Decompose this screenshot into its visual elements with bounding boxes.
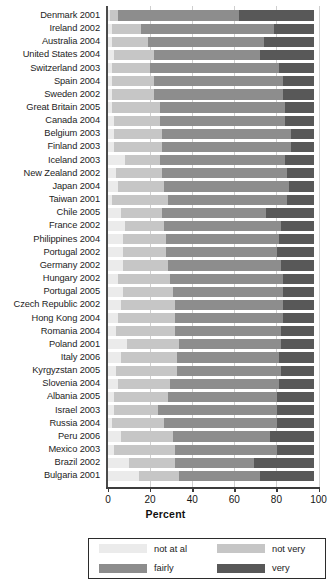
stacked-bar <box>106 50 314 60</box>
stacked-bar <box>106 300 314 310</box>
bar-segment-not-at-al <box>106 313 118 323</box>
bar-cell <box>104 206 331 219</box>
stacked-bar <box>106 181 314 191</box>
bar-cell <box>104 259 331 272</box>
x-axis-title: Percent <box>0 508 331 520</box>
bar-segment-not-very <box>112 102 160 112</box>
bar-segment-very <box>277 445 314 455</box>
row-label: New Zealand 2002 <box>0 169 104 178</box>
bar-segment-fairly <box>179 339 281 349</box>
legend-label: fairly <box>154 563 174 573</box>
chart-row: Germany 2002 <box>0 259 331 272</box>
bar-cell <box>104 391 331 404</box>
bar-segment-fairly <box>148 37 264 47</box>
legend-label: not at al <box>154 544 187 554</box>
bar-segment-very <box>281 366 314 376</box>
bar-segment-fairly <box>150 63 279 73</box>
stacked-bar <box>106 142 314 152</box>
x-tick-label: 20 <box>145 494 156 505</box>
bar-segment-very <box>287 195 314 205</box>
bar-segment-not-very <box>125 221 165 231</box>
stacked-bar <box>106 129 314 139</box>
bar-segment-not-very <box>112 76 154 86</box>
x-tick-label: 0 <box>105 494 111 505</box>
chart-row: Italy 2006 <box>0 351 331 364</box>
legend-swatch <box>99 564 147 573</box>
bar-cell <box>104 62 331 75</box>
bar-segment-very <box>279 63 314 73</box>
bar-cell <box>104 338 331 351</box>
bar-segment-not-at-al <box>106 458 129 468</box>
bar-segment-not-very <box>110 10 118 20</box>
x-tick-label: 80 <box>271 494 282 505</box>
bar-segment-not-at-al <box>106 379 118 389</box>
chart-row: Portugal 2002 <box>0 246 331 259</box>
bar-segment-very <box>291 142 314 152</box>
bar-segment-fairly <box>173 431 271 441</box>
bar-segment-fairly <box>177 352 279 362</box>
stacked-bar-chart: Denmark 2001Ireland 2002Australia 2004Un… <box>0 0 331 582</box>
bar-segment-very <box>239 10 314 20</box>
x-tick <box>234 487 235 492</box>
bar-segment-fairly <box>162 142 291 152</box>
chart-row: Denmark 2001 <box>0 9 331 22</box>
bar-segment-fairly <box>175 326 281 336</box>
legend-item: not at al <box>89 544 207 554</box>
stacked-bar <box>106 221 314 231</box>
legend-swatch <box>217 564 265 573</box>
stacked-bar <box>106 260 314 270</box>
stacked-bar <box>106 339 314 349</box>
bar-segment-not-very <box>123 234 167 244</box>
legend-label: very <box>272 563 290 573</box>
bar-segment-very <box>285 155 314 165</box>
bar-cell <box>104 351 331 364</box>
row-label: Slovenia 2004 <box>0 379 104 388</box>
legend-swatch <box>99 544 147 553</box>
row-label: Philippines 2004 <box>0 235 104 244</box>
chart-row: Chile 2005 <box>0 206 331 219</box>
chart-row: Philippines 2004 <box>0 233 331 246</box>
bar-segment-very <box>283 287 314 297</box>
bar-segment-fairly <box>168 260 280 270</box>
bar-segment-not-at-al <box>106 234 123 244</box>
bar-segment-very <box>274 24 314 34</box>
x-tick <box>276 487 277 492</box>
bar-segment-fairly <box>164 181 289 191</box>
bar-cell <box>104 272 331 285</box>
bar-segment-not-very <box>118 181 164 191</box>
bar-segment-not-at-al <box>106 287 123 297</box>
chart-row: Romania 2004 <box>0 325 331 338</box>
stacked-bar <box>106 102 314 112</box>
bar-segment-not-very <box>114 142 162 152</box>
row-label: Bulgaria 2001 <box>0 471 104 480</box>
bar-segment-fairly <box>175 458 254 468</box>
x-tick <box>150 487 151 492</box>
stacked-bar <box>106 392 314 402</box>
bar-segment-very <box>283 313 314 323</box>
bar-segment-fairly <box>175 313 283 323</box>
row-label: Chile 2005 <box>0 208 104 217</box>
row-label: Poland 2001 <box>0 340 104 349</box>
bar-segment-fairly <box>162 129 291 139</box>
row-label: France 2002 <box>0 221 104 230</box>
bar-segment-fairly <box>170 274 282 284</box>
bar-cell <box>104 154 331 167</box>
bar-cell <box>104 298 331 311</box>
bar-cell <box>104 114 331 127</box>
bar-segment-very <box>260 50 314 60</box>
bar-cell <box>104 167 331 180</box>
bar-segment-fairly <box>154 76 283 86</box>
bar-segment-very <box>260 471 314 481</box>
row-label: Australia 2004 <box>0 37 104 46</box>
chart-row: Bulgaria 2001 <box>0 469 331 482</box>
chart-row: Japan 2004 <box>0 180 331 193</box>
bar-segment-not-at-al <box>106 274 118 284</box>
chart-row: Canada 2004 <box>0 114 331 127</box>
bar-segment-not-at-al <box>106 352 121 362</box>
bar-segment-very <box>281 260 314 270</box>
row-label: Canada 2004 <box>0 116 104 125</box>
bar-segment-not-at-al <box>106 221 125 231</box>
row-label: Peru 2006 <box>0 432 104 441</box>
bar-segment-very <box>277 247 314 257</box>
bar-segment-not-very <box>114 116 160 126</box>
